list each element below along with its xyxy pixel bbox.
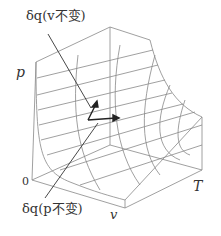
arrows <box>88 101 119 121</box>
axis-label-p: p <box>16 64 25 80</box>
arrowhead-v-const <box>92 101 98 107</box>
axis-label-v: v <box>110 207 117 222</box>
pvt-surface-diagram: δq(v不变) p 0 T v δq(p不变) <box>0 0 221 236</box>
annotation-dq-v-const: δq(v不变) <box>26 5 86 24</box>
arrow-p-const <box>88 118 116 120</box>
axis-label-T: T <box>193 178 202 194</box>
origin-label: 0 <box>22 175 29 188</box>
annotation-dq-p-const: δq(p不变) <box>22 198 83 217</box>
